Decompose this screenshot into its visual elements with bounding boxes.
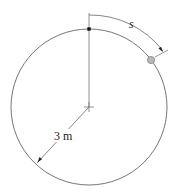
- radius-label: 3 m: [54, 129, 73, 143]
- arc-extension-line: [155, 50, 168, 57]
- start-point-marker: [87, 27, 90, 30]
- circular-path-diagram: s 3 m: [0, 0, 180, 194]
- arc-length-dimension: [89, 15, 163, 51]
- arc-length-label: s: [129, 17, 134, 31]
- particle-ball: [147, 56, 154, 63]
- arc-arrowhead-icon: [159, 47, 164, 52]
